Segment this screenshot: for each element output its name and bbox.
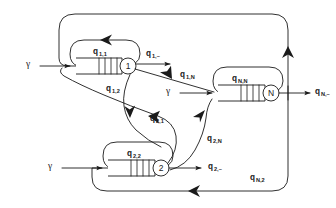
label-q-1-N-sub: 1,N xyxy=(186,74,195,80)
label-q-1-2-base: q xyxy=(106,84,111,93)
arrival-N-label: γ xyxy=(165,86,170,96)
station-N-server-label: N xyxy=(268,88,274,98)
station-N-queue xyxy=(218,85,265,101)
label-q-2-N-base: q xyxy=(207,134,212,143)
label-q-N-dash: q N,– xyxy=(315,87,330,97)
label-q-1-1-sub: 1,1 xyxy=(99,51,107,57)
label-q-2-dash-base: q xyxy=(208,162,213,171)
label-q-2-N-sub: 2,N xyxy=(213,138,222,144)
label-q-2-2: q 2,2 xyxy=(127,149,141,159)
label-q-1-2: q 1,2 xyxy=(106,84,120,94)
label-q-2-N: q 2,N xyxy=(207,134,222,144)
label-q-N-2: q N,2 xyxy=(250,173,265,183)
station-2-queue xyxy=(108,160,155,176)
label-q-2-1-base: q xyxy=(150,114,155,123)
label-q-N-N-base: q xyxy=(232,74,237,83)
route-2-N-arc xyxy=(170,99,212,170)
route-1-N-arc xyxy=(135,66,214,92)
label-q-1-N: q 1,N xyxy=(180,70,195,80)
arrival-2-label: γ xyxy=(47,161,52,171)
label-q-2-dash-sub: 2,– xyxy=(214,166,222,172)
label-q-2-2-sub: 2,2 xyxy=(133,153,141,159)
label-q-2-2-base: q xyxy=(127,149,132,158)
label-q-1-dash-sub: 1,– xyxy=(152,53,160,59)
label-q-N-N-sub: N,N xyxy=(238,78,248,84)
label-q-N-2-base: q xyxy=(250,173,255,182)
label-q-N-2-sub: N,2 xyxy=(256,177,265,183)
label-q-N-dash-base: q xyxy=(315,87,320,96)
label-q-1-dash: q 1,– xyxy=(146,49,160,59)
route-1-2-arc xyxy=(124,75,161,148)
label-q-1-dash-base: q xyxy=(146,49,151,58)
label-q-N-N: q N,N xyxy=(232,74,248,84)
station-1-queue xyxy=(76,58,122,74)
arrival-1-label: γ xyxy=(25,59,30,69)
label-q-1-1-base: q xyxy=(93,47,98,56)
queueing-network-diagram: 1 2 N γ xyxy=(0,0,336,208)
label-q-1-N-base: q xyxy=(180,70,185,79)
label-q-1-2-sub: 1,2 xyxy=(112,88,120,94)
station-2-server-label: 2 xyxy=(159,163,164,173)
station-1-server-label: 1 xyxy=(126,61,131,71)
route-2-1-arc xyxy=(60,68,176,163)
label-q-1-1: q 1,1 xyxy=(93,47,107,57)
label-q-N-dash-sub: N,– xyxy=(321,91,330,97)
label-q-2-1-sub: 2,1 xyxy=(156,118,164,124)
label-q-2-dash: q 2,– xyxy=(208,162,222,172)
network-canvas: 1 2 N γ xyxy=(0,0,336,208)
